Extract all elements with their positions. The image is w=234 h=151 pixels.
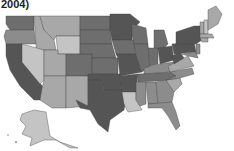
state-hawaii-island: [15, 141, 17, 143]
state-new-mexico: [66, 76, 88, 108]
state-new-jersey: [196, 44, 200, 54]
state-kansas: [92, 58, 118, 74]
state-arizona: [40, 76, 66, 108]
state-hawaii: [7, 134, 9, 136]
state-mississippi: [136, 82, 146, 106]
state-florida: [148, 102, 180, 130]
state-new-york: [176, 26, 202, 44]
state-massachusetts: [200, 34, 214, 38]
state-connecticut: [200, 38, 208, 42]
state-south-dakota: [80, 30, 112, 44]
state-washington: [6, 16, 34, 30]
us-choropleth-map: [0, 0, 234, 151]
state-colorado: [66, 54, 92, 76]
state-oregon: [4, 30, 36, 44]
state-wyoming: [56, 36, 80, 54]
state-utah: [44, 50, 66, 76]
state-alaska: [20, 110, 78, 148]
state-arkansas: [120, 74, 138, 92]
state-iowa: [112, 40, 136, 54]
state-indiana: [148, 48, 158, 66]
state-maine: [208, 6, 222, 30]
state-ohio: [158, 46, 174, 64]
state-new-hampshire: [204, 20, 208, 34]
state-vermont: [200, 22, 204, 34]
state-north-dakota: [80, 16, 110, 30]
state-wisconsin: [132, 24, 148, 44]
